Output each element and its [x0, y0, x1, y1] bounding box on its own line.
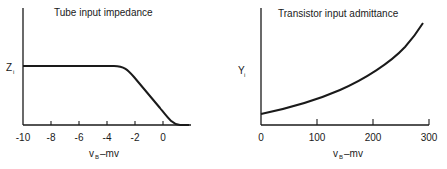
right-x-ticks [317, 119, 429, 125]
tick-label: -4 [103, 132, 112, 143]
svg-text:B: B [339, 154, 343, 160]
svg-text:v: v [89, 148, 94, 159]
tick-label: -10 [16, 132, 31, 143]
svg-text:i: i [13, 69, 14, 75]
figure: Tube input impedance -10 -8 -6 -4 -2 0 Z… [0, 0, 447, 169]
right-x-tick-labels: 0 100 200 300 [258, 132, 438, 143]
chart-tube-impedance: Tube input impedance -10 -8 -6 -4 -2 0 Z… [6, 7, 191, 160]
svg-text:Z: Z [6, 62, 12, 73]
chart-transistor-admittance: Transistor input admittance 0 100 200 30… [238, 8, 438, 160]
tick-label: 0 [258, 132, 264, 143]
tick-label: 0 [160, 132, 166, 143]
svg-text:–mv: –mv [344, 148, 363, 159]
right-chart-title: Transistor input admittance [278, 8, 399, 19]
left-chart-title: Tube input impedance [54, 7, 153, 18]
right-y-label: Y i [238, 65, 245, 78]
svg-text:v: v [333, 148, 338, 159]
tick-label: -8 [47, 132, 56, 143]
left-y-label: Z i [6, 62, 14, 75]
left-x-tick-labels: -10 -8 -6 -4 -2 0 [16, 132, 166, 143]
svg-text:B: B [95, 154, 99, 160]
right-curve [261, 23, 423, 114]
tick-label: 100 [309, 132, 326, 143]
svg-text:–mv: –mv [100, 148, 119, 159]
tick-label: 200 [365, 132, 382, 143]
left-x-label: v B –mv [89, 148, 119, 160]
right-x-label: v B –mv [333, 148, 363, 160]
left-curve [23, 66, 189, 125]
tick-label: -6 [75, 132, 84, 143]
tick-label: 300 [421, 132, 438, 143]
tick-label: -2 [131, 132, 140, 143]
svg-text:i: i [244, 72, 245, 78]
